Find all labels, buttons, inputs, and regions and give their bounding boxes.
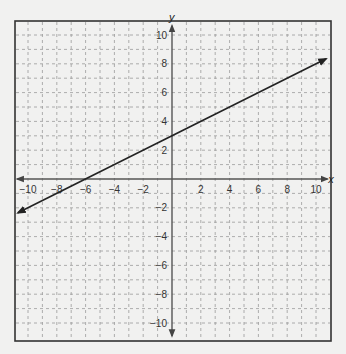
y-tick-label: −4 [156,231,168,242]
grid [16,22,330,340]
x-tick-label: 8 [284,184,290,195]
x-tick-label: −6 [80,184,92,195]
y-tick-label: −8 [156,289,168,300]
axes [17,26,327,336]
x-tick-label: 4 [227,184,233,195]
y-tick-label: 10 [156,30,168,41]
y-tick-label: 6 [161,87,167,98]
x-tick-label: −10 [20,184,37,195]
x-axis-label: x [327,173,334,185]
x-tick-label: 6 [256,184,262,195]
x-tick-label: −2 [137,184,149,195]
y-tick-label: 4 [161,116,167,127]
y-tick-label: 2 [161,145,167,156]
y-tick-label: −6 [156,260,168,271]
y-tick-label: −10 [150,318,167,329]
y-tick-label: 8 [161,58,167,69]
y-tick-label: −2 [156,202,168,213]
x-tick-label: 2 [198,184,204,195]
x-tick-label: −4 [109,184,121,195]
plot-frame [15,21,331,341]
x-tick-label: 10 [310,184,322,195]
coordinate-plane: −10−8−6−4−2246810−10−8−6−4−2246810 x y [0,0,346,354]
